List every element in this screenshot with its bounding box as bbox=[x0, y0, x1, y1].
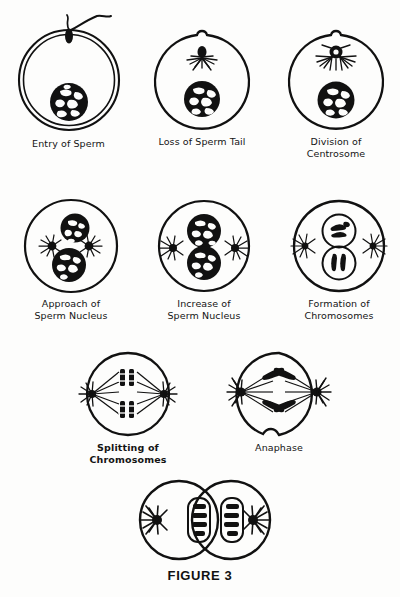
aster-right bbox=[160, 382, 177, 406]
aster-left bbox=[227, 378, 246, 406]
aster-left bbox=[79, 382, 96, 406]
migrating-chromosomes bbox=[262, 368, 296, 412]
formation-of-chromosomes-illustration bbox=[287, 196, 391, 296]
aster-right bbox=[225, 236, 249, 260]
division-of-centrosome-illustration bbox=[284, 26, 388, 134]
stage-caption: Anaphase bbox=[255, 442, 303, 454]
aster-right bbox=[243, 506, 270, 534]
daughter-cells-illustration bbox=[125, 477, 285, 563]
stage-approach-of-sperm-nucleus: Approach of Sperm Nucleus bbox=[10, 196, 132, 321]
stage-caption: Loss of Sperm Tail bbox=[158, 136, 245, 148]
chromosomes-upper bbox=[331, 222, 351, 238]
increase-of-sperm-nucleus-illustration bbox=[152, 196, 256, 296]
stage-caption: Division of Centrosome bbox=[307, 136, 366, 159]
stage-daughter-cells bbox=[120, 477, 290, 563]
stage-splitting-of-chromosomes: Splitting of Chromosomes bbox=[68, 348, 188, 465]
aster-left bbox=[140, 506, 167, 534]
figure-plate: Entry of Sperm bbox=[0, 0, 400, 597]
egg-nucleus bbox=[52, 248, 86, 282]
stage-increase-of-sperm-nucleus: Increase of Sperm Nucleus bbox=[145, 196, 263, 321]
spindle-fibers bbox=[92, 372, 164, 414]
egg-nucleus bbox=[318, 82, 355, 119]
egg-nucleus bbox=[187, 246, 221, 280]
egg-nucleus bbox=[184, 81, 220, 117]
stage-caption: Splitting of Chromosomes bbox=[89, 442, 166, 465]
anaphase-illustration bbox=[219, 348, 339, 440]
stage-entry-of-sperm: Entry of Sperm bbox=[6, 14, 131, 150]
splitting-of-chromosomes-illustration bbox=[72, 348, 184, 440]
stage-division-of-centrosome: Division of Centrosome bbox=[277, 26, 395, 159]
stage-caption: Approach of Sperm Nucleus bbox=[34, 298, 107, 321]
stage-loss-of-sperm-tail: Loss of Sperm Tail bbox=[143, 26, 261, 148]
sperm-head-aster bbox=[187, 46, 217, 70]
aster-left bbox=[159, 236, 183, 260]
stage-formation-of-chromosomes: Formation of Chromosomes bbox=[280, 196, 398, 321]
sperm-nucleus bbox=[187, 214, 221, 248]
daughter-nucleus-right bbox=[221, 498, 243, 542]
approach-of-sperm-nucleus-illustration bbox=[17, 196, 125, 296]
loss-of-sperm-tail-illustration bbox=[150, 26, 254, 134]
chromosomes-lower bbox=[331, 254, 346, 271]
stage-caption: Entry of Sperm bbox=[32, 138, 105, 150]
stage-caption: Formation of Chromosomes bbox=[304, 298, 373, 321]
egg-nucleus bbox=[50, 83, 88, 121]
aster-right bbox=[312, 378, 331, 406]
sperm-nucleus bbox=[61, 214, 90, 244]
chromosome-plate bbox=[120, 369, 134, 418]
dividing-centrosome-aster bbox=[316, 45, 356, 70]
stage-anaphase: Anaphase bbox=[215, 348, 343, 454]
entry-of-sperm-illustration bbox=[13, 14, 125, 136]
figure-caption: FIGURE 3 bbox=[0, 568, 400, 583]
stage-caption: Increase of Sperm Nucleus bbox=[167, 298, 240, 321]
